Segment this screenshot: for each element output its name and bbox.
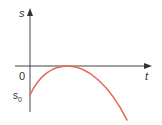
x-axis-arrow-icon xyxy=(144,63,152,69)
graph-canvas: s t 0 s0 xyxy=(0,0,162,125)
parabola-curve xyxy=(30,66,127,120)
origin-label: 0 xyxy=(19,70,25,82)
x-axis-label: t xyxy=(145,70,149,82)
s0-subscript: 0 xyxy=(18,96,22,103)
y-axis-arrow-icon xyxy=(27,8,33,16)
position-curve xyxy=(30,56,68,95)
s0-label: s0 xyxy=(13,90,22,103)
y-axis-label: s xyxy=(19,7,25,19)
